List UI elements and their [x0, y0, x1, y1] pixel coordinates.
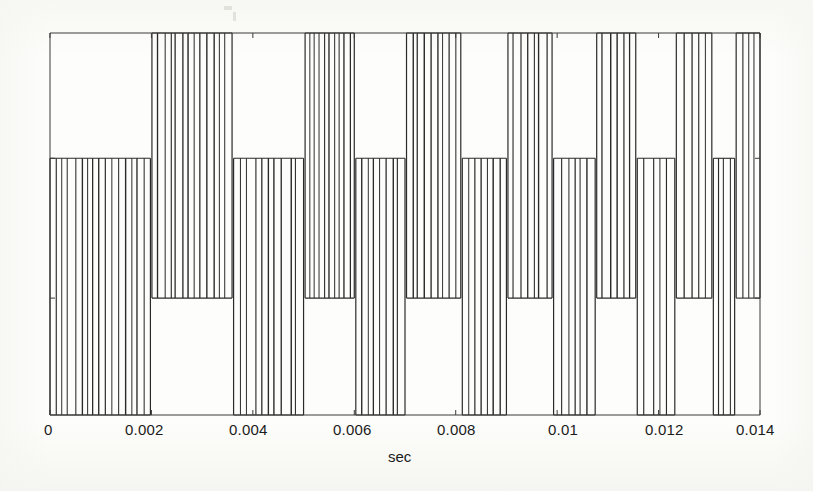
figure-screenshot: 0 0.002 0.004 0.006 0.008 0.01 0.012 0.0…: [0, 0, 813, 491]
x-axis-label: sec: [388, 448, 411, 465]
x-tick-label-4: 0.008: [437, 421, 476, 438]
waveform-plot: [0, 0, 813, 491]
x-tick-label-5: 0.01: [548, 421, 578, 438]
x-tick-label-3: 0.006: [333, 421, 372, 438]
x-tick-label-0: 0: [44, 421, 53, 438]
x-tick-label-7: 0.014: [736, 421, 775, 438]
pulse-train-figure: 0 0.002 0.004 0.006 0.008 0.01 0.012 0.0…: [0, 0, 813, 491]
x-tick-label-6: 0.012: [645, 421, 684, 438]
x-tick-label-1: 0.002: [125, 421, 164, 438]
x-tick-label-2: 0.004: [229, 421, 268, 438]
